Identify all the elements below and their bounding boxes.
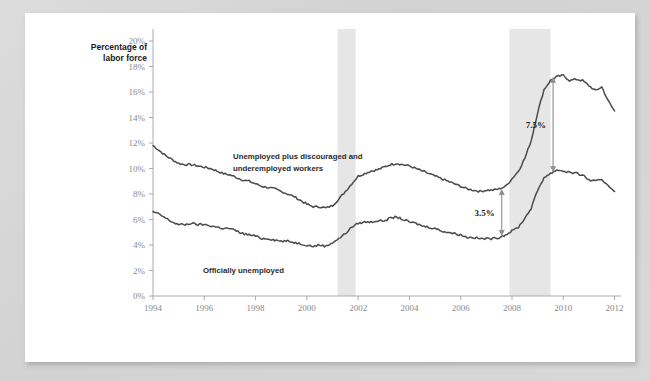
recession-2008 [509, 29, 550, 296]
recession-2001 [338, 29, 356, 296]
y-tick-label: 2% [133, 266, 146, 276]
x-tick-label: 2002 [349, 303, 367, 313]
unemployment-line-chart: 0%2%4%6%8%10%12%14%16%18%20% 19941996199… [25, 13, 635, 362]
gap-2009-label: 7.5% [526, 120, 546, 130]
x-tick-label: 1996 [195, 303, 214, 313]
y-tick-label: 0% [133, 291, 146, 301]
y-tick-label: 4% [133, 240, 146, 250]
y-axis-tick-labels: 0%2%4%6%8%10%12%14%16%18%20% [129, 36, 146, 301]
series-label-broad-line2: underemployed workers [233, 164, 324, 173]
y-axis-title-line2: labor force [103, 53, 147, 63]
series-label-broad-line1: Unemployed plus discouraged and [233, 152, 363, 161]
y-axis-title-line1: Percentage of [91, 42, 147, 52]
figure-card: 0%2%4%6%8%10%12%14%16%18%20% 19941996199… [25, 13, 635, 362]
x-tick-label: 1998 [247, 303, 266, 313]
y-tick-label: 12% [129, 138, 146, 148]
x-axis-tick-labels: 1994199619982000200220042006200820102012 [144, 303, 624, 313]
y-tick-label: 8% [133, 189, 146, 199]
x-tick-label: 2008 [503, 303, 521, 313]
x-tick-label: 2000 [298, 303, 317, 313]
x-tick-label: 2010 [554, 303, 573, 313]
y-tick-label: 18% [129, 62, 146, 72]
chart-container: 0%2%4%6%8%10%12%14%16%18%20% 19941996199… [25, 13, 635, 362]
series-label-official: Officially unemployed [203, 266, 284, 275]
y-tick-label: 10% [129, 164, 146, 174]
y-tick-label: 6% [133, 215, 146, 225]
gap-2007-arrow-head-bottom [499, 230, 505, 236]
x-tick-label: 2012 [606, 303, 624, 313]
x-tick-label: 1994 [144, 303, 163, 313]
y-tick-label: 14% [129, 113, 146, 123]
gap-2007-label: 3.5% [475, 208, 495, 218]
x-tick-label: 2004 [400, 303, 419, 313]
y-tick-label: 16% [129, 87, 146, 97]
x-tick-label: 2006 [452, 303, 471, 313]
recession-bands [338, 29, 551, 296]
gap-2007-arrow-head-top [499, 189, 505, 195]
